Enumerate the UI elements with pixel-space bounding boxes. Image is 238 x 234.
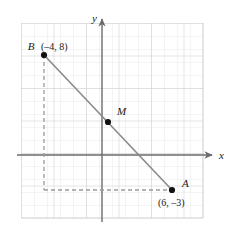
point-label-B: B (28, 40, 35, 52)
point-coord-A: (6, –3) (158, 197, 185, 209)
point-M (105, 119, 111, 125)
point-coord-B: (–4, 8) (41, 41, 68, 53)
point-label-M: M (116, 105, 127, 117)
point-label-A: A (181, 177, 189, 189)
y-axis-label: y (91, 12, 97, 24)
coordinate-plane-figure: B (–4, 8) M A (6, –3) x y (0, 0, 238, 234)
grid-major (21, 23, 203, 218)
x-axis-label: x (218, 149, 224, 161)
figure-canvas: B (–4, 8) M A (6, –3) x y (0, 0, 238, 234)
point-A (169, 187, 175, 193)
point-B (41, 52, 47, 58)
